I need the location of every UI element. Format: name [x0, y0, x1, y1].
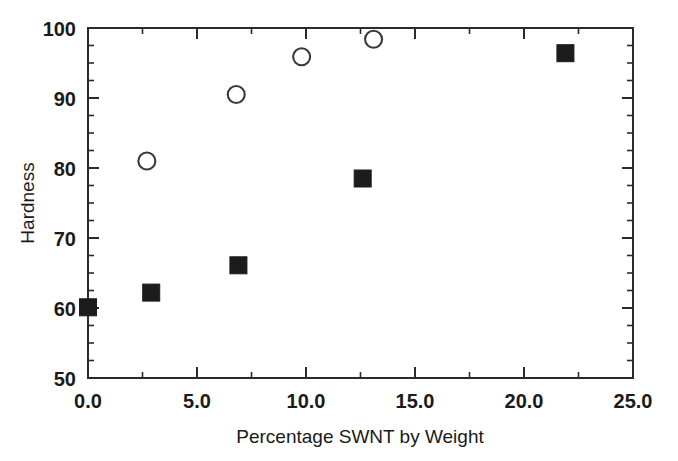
y-axis-title: Hardness: [17, 162, 38, 243]
y-tick-label: 60: [54, 298, 76, 320]
y-axis-minor-ticks: [88, 46, 633, 361]
x-tick-label: 5.0: [183, 390, 211, 412]
y-tick-label: 90: [54, 88, 76, 110]
x-tick-label: 15.0: [396, 390, 435, 412]
x-tick-label: 10.0: [287, 390, 326, 412]
chart-figure: 0.05.010.015.020.025.0 5060708090100 Per…: [0, 0, 678, 461]
data-point-filled-square[interactable]: [143, 284, 160, 301]
data-point-filled-square[interactable]: [230, 257, 247, 274]
x-axis-minor-ticks: [143, 28, 579, 378]
data-markers-layer: [80, 31, 574, 316]
data-point-filled-square[interactable]: [557, 45, 574, 62]
data-point-open-circle[interactable]: [138, 153, 155, 170]
data-point-open-circle[interactable]: [228, 86, 245, 103]
y-tick-label: 70: [54, 228, 76, 250]
y-axis-major-ticks: [88, 28, 633, 378]
scatter-plot: 0.05.010.015.020.025.0 5060708090100 Per…: [0, 0, 678, 461]
data-point-filled-square[interactable]: [80, 299, 97, 316]
series-open-circle-series: [138, 31, 382, 170]
series-filled-square-series: [80, 45, 574, 316]
data-point-filled-square[interactable]: [354, 170, 371, 187]
y-tick-label: 100: [43, 18, 76, 40]
y-tick-label: 80: [54, 158, 76, 180]
axis-frame: [88, 28, 633, 378]
x-axis-tick-labels: 0.05.010.015.020.025.0: [74, 390, 652, 412]
x-tick-label: 0.0: [74, 390, 102, 412]
data-point-open-circle[interactable]: [293, 48, 310, 65]
x-tick-label: 20.0: [505, 390, 544, 412]
data-point-open-circle[interactable]: [365, 31, 382, 48]
x-tick-label: 25.0: [614, 390, 653, 412]
x-axis-major-ticks: [88, 28, 633, 378]
x-axis-title: Percentage SWNT by Weight: [236, 426, 484, 447]
y-axis-tick-labels: 5060708090100: [43, 18, 76, 390]
y-tick-label: 50: [54, 368, 76, 390]
